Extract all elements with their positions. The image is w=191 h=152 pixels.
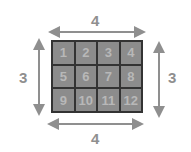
grid-cell: 11 bbox=[97, 88, 120, 112]
top-dimension-label: 4 bbox=[91, 12, 99, 29]
left-dimension-label: 3 bbox=[19, 69, 27, 86]
grid-cell: 4 bbox=[120, 41, 143, 65]
grid-cell: 7 bbox=[97, 65, 120, 89]
grid-cell: 10 bbox=[75, 88, 98, 112]
right-dimension-label: 3 bbox=[168, 69, 176, 86]
number-grid: 1 2 3 4 5 6 7 8 9 10 11 12 bbox=[51, 40, 143, 113]
grid-cell: 12 bbox=[120, 88, 143, 112]
grid-cell: 6 bbox=[75, 65, 98, 89]
grid-cell: 8 bbox=[120, 65, 143, 89]
grid-cell: 1 bbox=[52, 41, 75, 65]
grid-cell: 9 bbox=[52, 88, 75, 112]
grid-cell: 5 bbox=[52, 65, 75, 89]
bottom-dimension-label: 4 bbox=[91, 130, 99, 147]
grid-cell: 3 bbox=[97, 41, 120, 65]
grid-cell: 2 bbox=[75, 41, 98, 65]
